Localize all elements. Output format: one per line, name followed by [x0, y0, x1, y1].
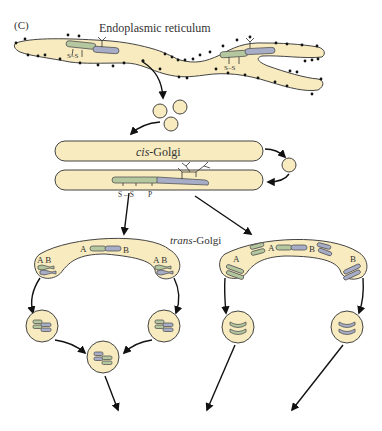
vesicle-green [222, 311, 254, 343]
er-right-ss-label: S–S [224, 64, 235, 72]
vesicle-mixed-left [26, 310, 58, 342]
arrow-to-retrograde-vesicle [265, 149, 285, 157]
arrow-trans-left-to-vesicle-1 [32, 278, 40, 313]
panel-label: (C) [14, 19, 29, 32]
arrow-fuse-right [124, 340, 152, 353]
arrow-to-trans-golgi-right [195, 196, 251, 234]
arrow-exit-blue [292, 345, 343, 410]
trans-right-lobe-left-label: A [233, 254, 240, 264]
trans-golgi-label: trans-Golgi [170, 234, 221, 246]
arrow-trans-right-to-vesicle-green [225, 278, 226, 313]
er-title: Endoplasmic reticulum [99, 21, 211, 35]
arrow-from-retrograde-vesicle [268, 174, 289, 182]
trans-right-label-a: A [268, 243, 275, 253]
vesicle-mixed-right [148, 310, 180, 342]
arrow-trans-left-to-vesicle-2 [174, 278, 179, 313]
protein-sorting-diagram: (C) Endoplasmic reticulum [0, 0, 382, 431]
er-left-ss-label: S–S [67, 52, 78, 60]
cis-golgi-ss-label: S – S [118, 190, 134, 199]
trans-left-lobe-right-label: A B [153, 255, 167, 265]
trans-golgi-right: A B A B [220, 239, 367, 280]
trans-left-label-b: B [123, 245, 129, 255]
trans-golgi-left: A B A B A B [35, 238, 180, 279]
arrow-vesicles-to-cis-golgi [131, 122, 160, 134]
trans-left-lobe-left-label: A B [37, 255, 51, 265]
arrow-exit-green [207, 345, 235, 410]
arrow-trans-right-to-vesicle-blue [359, 278, 363, 313]
cis-golgi-cisterna-2: S – S P [55, 162, 263, 199]
vesicle-blue [331, 311, 363, 343]
trans-right-label-b: B [309, 244, 315, 254]
cis-golgi-cisterna: cis-Golgi [55, 141, 263, 161]
arrow-exit-fused [105, 376, 118, 410]
trans-left-label-a: A [80, 244, 87, 254]
endoplasmic-reticulum: S–S S–S [14, 34, 324, 96]
vesicle-fused [87, 341, 119, 373]
arrow-to-trans-golgi-left [124, 193, 129, 234]
trans-right-lobe-right-label: B [350, 254, 356, 264]
cis-golgi-label: cis-Golgi [136, 145, 181, 159]
arrow-fuse-left [55, 340, 85, 353]
transport-vesicles [153, 100, 187, 131]
cis-golgi-p-label: P [148, 190, 152, 199]
retrograde-vesicle [282, 158, 296, 172]
